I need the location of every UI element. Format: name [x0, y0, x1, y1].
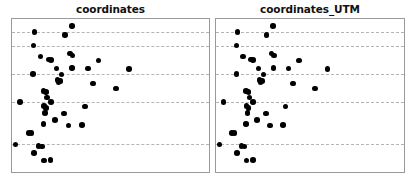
- panel-title-coordinates: coordinates: [11, 3, 210, 15]
- data-point: [234, 43, 240, 49]
- panel-title-coordinates-utm: coordinates_UTM: [215, 3, 405, 15]
- gridline: [12, 32, 209, 33]
- panel-coordinates-utm: coordinates_UTM: [215, 0, 405, 183]
- data-point: [256, 66, 262, 72]
- data-point: [113, 86, 119, 92]
- data-point: [250, 157, 256, 163]
- data-point: [48, 99, 54, 105]
- data-point: [52, 117, 58, 123]
- data-point: [296, 58, 302, 64]
- plot-area-coordinates-utm: [215, 18, 405, 173]
- data-point: [96, 58, 102, 64]
- data-point: [270, 23, 276, 29]
- data-point: [261, 72, 267, 78]
- data-point: [283, 104, 289, 110]
- data-point: [17, 99, 23, 105]
- gridline: [12, 74, 209, 75]
- data-point: [217, 142, 223, 148]
- data-point: [82, 104, 88, 110]
- data-point: [250, 57, 256, 63]
- data-point: [85, 66, 91, 72]
- data-point: [254, 117, 260, 123]
- data-point: [59, 72, 65, 78]
- panel-coordinates: coordinates: [11, 0, 210, 183]
- data-point: [126, 66, 132, 72]
- plot-area-coordinates: [11, 18, 210, 173]
- data-point: [32, 29, 38, 35]
- data-point: [271, 65, 277, 71]
- data-point: [242, 144, 248, 150]
- data-point: [250, 99, 256, 105]
- data-point: [264, 32, 270, 38]
- data-point: [70, 53, 76, 59]
- data-point: [39, 144, 45, 150]
- data-point: [240, 54, 246, 60]
- data-point: [62, 32, 68, 38]
- data-point: [280, 122, 286, 128]
- data-point: [243, 121, 249, 127]
- data-point: [234, 150, 240, 156]
- data-point: [271, 53, 277, 59]
- data-point: [48, 157, 54, 163]
- data-point: [41, 121, 47, 127]
- data-point: [29, 130, 35, 136]
- data-point: [245, 110, 251, 116]
- data-point: [48, 57, 54, 63]
- data-point: [58, 78, 64, 84]
- data-point: [69, 65, 75, 71]
- data-point: [244, 158, 250, 164]
- scatter-plot-figure: coordinates coordinates_UTM: [0, 0, 416, 183]
- gridline: [12, 46, 209, 47]
- data-point: [235, 29, 241, 35]
- data-point: [234, 71, 240, 77]
- data-point: [312, 86, 318, 92]
- data-point: [286, 66, 292, 72]
- data-point: [31, 43, 37, 49]
- data-point: [263, 111, 269, 117]
- data-point: [42, 110, 48, 116]
- data-point: [66, 123, 72, 129]
- data-point: [325, 66, 331, 72]
- data-point: [259, 78, 265, 84]
- data-point: [54, 66, 60, 72]
- data-point: [221, 99, 227, 105]
- data-point: [30, 71, 36, 77]
- data-point: [267, 123, 273, 129]
- data-point: [90, 81, 96, 87]
- data-point: [41, 158, 47, 164]
- data-point: [61, 111, 67, 117]
- gridline: [216, 74, 404, 75]
- gridline: [216, 46, 404, 47]
- data-point: [13, 142, 19, 148]
- data-point: [31, 150, 37, 156]
- data-point: [69, 23, 75, 29]
- gridline: [216, 32, 404, 33]
- data-point: [232, 130, 238, 136]
- data-point: [38, 54, 44, 60]
- data-point: [290, 81, 296, 87]
- data-point: [79, 122, 85, 128]
